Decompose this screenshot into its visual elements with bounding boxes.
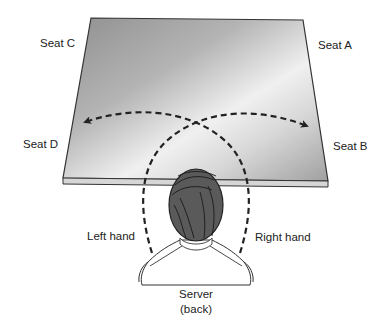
server-sublabel: (back) bbox=[180, 304, 212, 316]
server-label: Server bbox=[179, 289, 213, 301]
diagram-canvas: Seat C Seat A Seat D Seat B Left hand Ri… bbox=[0, 0, 381, 321]
seat-c-label: Seat C bbox=[40, 38, 75, 50]
right-hand-label: Right hand bbox=[255, 232, 311, 244]
seat-b-label: Seat B bbox=[333, 141, 368, 153]
seat-d-label: Seat D bbox=[23, 139, 58, 151]
table bbox=[63, 18, 328, 187]
seat-a-label: Seat A bbox=[318, 40, 352, 52]
table-top bbox=[63, 18, 328, 181]
server-head bbox=[169, 169, 223, 241]
left-hand-label: Left hand bbox=[87, 231, 135, 243]
